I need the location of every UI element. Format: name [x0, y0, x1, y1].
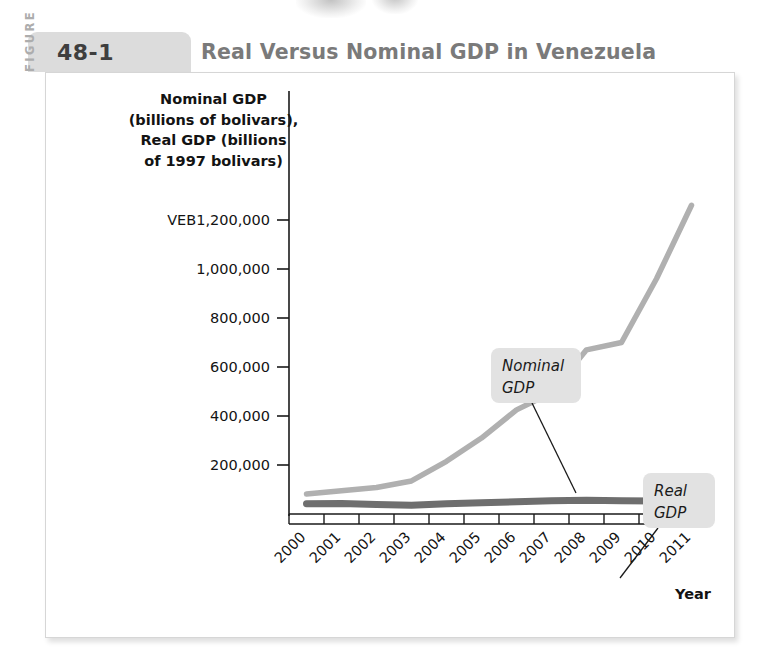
- annotation-label-line-2: GDP: [654, 504, 687, 522]
- y-axis-tick-label: 600,000: [210, 359, 270, 375]
- x-axis-tick-label: 2006: [481, 529, 518, 566]
- annotation-label-line-1: Nominal: [502, 357, 565, 375]
- scan-smudge-right: [372, 0, 418, 14]
- x-axis-tick-label: 2003: [376, 529, 413, 566]
- x-axis-tick-label: 2000: [271, 529, 308, 566]
- y-axis-tick-label: 1,000,000: [196, 261, 270, 277]
- figure-number-tab: FIGURE 48-1: [28, 32, 191, 72]
- gdp-line-chart: 200,000400,000600,000800,0001,000,000VEB…: [46, 73, 736, 639]
- y-axis-tick-label: 400,000: [210, 408, 270, 424]
- x-axis-tick-label: 2001: [306, 529, 343, 566]
- x-axis-title: Year: [674, 586, 712, 602]
- series-line-real-gdp: [307, 500, 692, 505]
- x-axis-tick-label: 2007: [516, 529, 553, 566]
- figure-number: 48-1: [57, 40, 114, 65]
- annotation-label-line-1: Real: [654, 482, 688, 500]
- x-axis-tick-label: 2004: [411, 529, 448, 566]
- figure-panel: Nominal GDP (billions of bolivars), Real…: [45, 72, 735, 638]
- y-axis-tick-label: 800,000: [210, 310, 270, 326]
- scan-smudge-left: [296, 0, 366, 18]
- x-axis-tick-label: 2002: [341, 529, 378, 566]
- x-axis-tick-label: 2005: [446, 529, 483, 566]
- x-axis-tick-label: 2011: [656, 529, 693, 566]
- x-axis-tick-label: 2008: [551, 529, 588, 566]
- y-axis-tick-label: 200,000: [210, 457, 270, 473]
- annotation-label-line-2: GDP: [502, 379, 535, 397]
- y-axis-tick-label: VEB1,200,000: [167, 212, 270, 228]
- figure-kicker-label: FIGURE: [23, 6, 37, 72]
- annotation-leader-line: [532, 403, 576, 493]
- x-axis-tick-label: 2009: [586, 529, 623, 566]
- figure-title: Real Versus Nominal GDP in Venezuela: [201, 40, 656, 64]
